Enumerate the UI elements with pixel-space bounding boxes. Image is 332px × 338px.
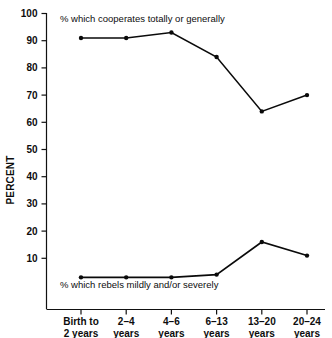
x-tick-label: 4–6years xyxy=(158,316,185,338)
y-axis: 102030405060708090100 PERCENT xyxy=(5,8,47,309)
data-point xyxy=(214,55,218,59)
x-axis-tick-labels: Birth to2 years2–4years4–6years6–13years… xyxy=(63,316,321,338)
y-tick-label: 100 xyxy=(21,8,38,19)
data-point xyxy=(305,93,309,97)
y-axis-tick-labels: 102030405060708090100 xyxy=(21,8,38,264)
data-point xyxy=(260,109,264,113)
y-tick-label: 90 xyxy=(26,35,38,46)
data-point xyxy=(214,272,218,276)
y-tick-label: 60 xyxy=(26,117,38,128)
x-tick-label: 20–24years xyxy=(293,316,321,338)
series-label-rebels: % which rebels mildly and/or severely xyxy=(60,279,219,290)
series-label-cooperates: % which cooperates totally or generally xyxy=(60,13,225,24)
x-tick-label: 2–4years xyxy=(113,316,140,338)
y-tick-label: 40 xyxy=(26,171,38,182)
y-axis-ticks xyxy=(42,14,47,259)
y-axis-title: PERCENT xyxy=(5,155,16,204)
series-line-0 xyxy=(81,33,307,112)
y-tick-label: 50 xyxy=(26,144,38,155)
line-chart: 102030405060708090100 PERCENT Birth to2 … xyxy=(0,0,332,338)
y-tick-label: 70 xyxy=(26,90,38,101)
y-tick-label: 10 xyxy=(26,253,38,264)
y-tick-label: 30 xyxy=(26,198,38,209)
data-point xyxy=(260,240,264,244)
y-tick-label: 80 xyxy=(26,62,38,73)
series-annotations: % which cooperates totally or generally … xyxy=(60,13,225,290)
data-point xyxy=(124,36,128,40)
series-line-1 xyxy=(81,242,307,277)
data-point xyxy=(169,30,173,34)
x-axis: Birth to2 years2–4years4–6years6–13years… xyxy=(47,310,326,338)
chart-canvas: 102030405060708090100 PERCENT Birth to2 … xyxy=(0,0,332,338)
x-tick-label: Birth to2 years xyxy=(63,316,99,338)
data-point xyxy=(79,36,83,40)
x-tick-label: 6–13years xyxy=(204,316,231,338)
x-tick-label: 13–20years xyxy=(248,316,276,338)
x-axis-ticks xyxy=(81,310,307,315)
data-point xyxy=(305,253,309,257)
series-layer xyxy=(79,30,309,279)
y-tick-label: 20 xyxy=(26,226,38,237)
